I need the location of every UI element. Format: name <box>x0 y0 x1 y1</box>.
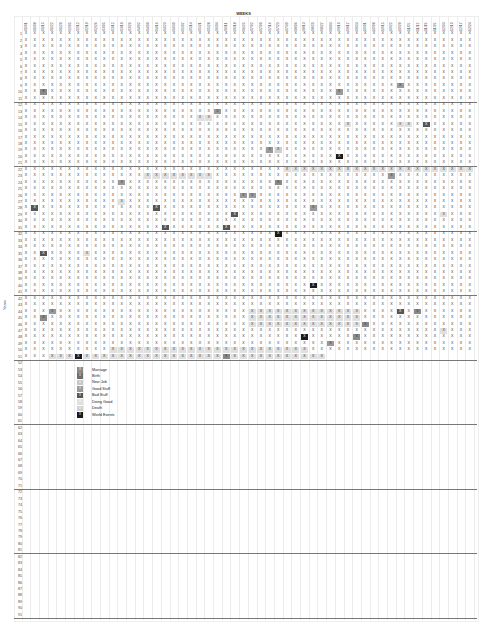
week-cell: X <box>336 128 343 134</box>
week-cell: X <box>179 334 186 340</box>
week-cell: X <box>75 135 82 141</box>
week-cell: X <box>275 322 282 328</box>
week-cell: X <box>110 70 117 76</box>
week-cell: X <box>231 289 238 295</box>
week-cell: X <box>40 76 47 82</box>
week-cell: X <box>379 186 386 192</box>
week-cell: X <box>223 270 230 276</box>
week-cell: X <box>318 218 325 224</box>
week-cell: X <box>75 173 82 179</box>
week-cell: X <box>101 31 108 37</box>
week-cell: X <box>362 70 369 76</box>
week-cell: X <box>405 128 412 134</box>
week-cell: X <box>110 276 117 282</box>
week-cell: X <box>301 160 308 166</box>
week-cell: X <box>397 57 404 63</box>
week-cell: X <box>144 135 151 141</box>
week-cell: X <box>49 276 56 282</box>
week-cell: X <box>101 89 108 95</box>
week-cell: X <box>179 231 186 237</box>
week-cell: X <box>327 218 334 224</box>
week-cell: X <box>379 341 386 347</box>
week-cell: X <box>40 244 47 250</box>
week-cell: X <box>275 257 282 263</box>
week-cell: X <box>162 128 169 134</box>
week-cell: X <box>49 102 56 108</box>
week-cell: X <box>31 76 38 82</box>
week-cell: X <box>397 225 404 231</box>
week-cell: X <box>257 44 264 50</box>
week-cell: X <box>118 64 125 70</box>
week-cell: X <box>92 115 99 121</box>
week-cell: X <box>83 309 90 315</box>
week-cell: X <box>240 160 247 166</box>
week-label: 02/12 <box>76 17 80 31</box>
week-cell: X <box>284 44 291 50</box>
week-cell: X <box>127 160 134 166</box>
week-cell: X <box>197 193 204 199</box>
week-cell: X <box>188 83 195 89</box>
week-cell: X <box>144 115 151 121</box>
week-cell: X <box>344 341 351 347</box>
week-cell: X <box>162 199 169 205</box>
week-cell: X <box>397 70 404 76</box>
week-cell: X <box>257 70 264 76</box>
week-cell: X <box>136 102 143 108</box>
week-cell: X <box>362 322 369 328</box>
week-cell: X <box>197 257 204 263</box>
week-cell: X <box>75 270 82 276</box>
week-cell: X <box>440 251 447 257</box>
week-cell: X <box>327 244 334 250</box>
week-cell: X <box>257 173 264 179</box>
week-cell: X <box>414 251 421 257</box>
week-cell: X <box>301 141 308 147</box>
week-cell: X <box>75 264 82 270</box>
legend-label: Doing Good <box>92 400 112 404</box>
week-cell: X <box>118 302 125 308</box>
week-cell: X <box>127 341 134 347</box>
week-cell: X <box>397 212 404 218</box>
week-cell: X <box>275 167 282 173</box>
week-cell: X <box>223 283 230 289</box>
week-cell: X <box>223 44 230 50</box>
week-cell: X <box>466 38 473 44</box>
week-cell: X <box>449 328 456 334</box>
week-cell: X <box>23 244 30 250</box>
week-cell: X <box>266 231 273 237</box>
week-cell: X <box>371 289 378 295</box>
week-cell: X <box>310 328 317 334</box>
week-cell: X <box>231 160 238 166</box>
week-cell: X <box>449 218 456 224</box>
week-cell: X <box>266 70 273 76</box>
week-cell: X <box>153 102 160 108</box>
week-cell: X <box>179 276 186 282</box>
week-cell: X <box>440 51 447 57</box>
week-cell: X <box>66 264 73 270</box>
week-cell: X <box>144 160 151 166</box>
week-cell: X <box>284 334 291 340</box>
week-cell: X <box>388 173 395 179</box>
week-cell: X <box>118 160 125 166</box>
week-cell: X <box>170 302 177 308</box>
week-cell: X <box>179 128 186 134</box>
week-cell: X <box>431 225 438 231</box>
week-cell: X <box>397 128 404 134</box>
week-cell: X <box>188 147 195 153</box>
week-cell: X <box>249 322 256 328</box>
week-cell: X <box>179 341 186 347</box>
year-label: 42 <box>12 297 22 301</box>
week-cell: X <box>57 354 64 360</box>
week-cell: X <box>197 44 204 50</box>
week-cell: X <box>431 109 438 115</box>
week-cell: X <box>40 70 47 76</box>
week-cell: X <box>310 186 317 192</box>
week-cell: X <box>344 347 351 353</box>
week-cell: X <box>57 38 64 44</box>
week-cell: X <box>257 160 264 166</box>
week-cell: X <box>136 135 143 141</box>
week-label: 07/16 <box>268 17 272 31</box>
week-cell: X <box>136 251 143 257</box>
week-cell: X <box>188 251 195 257</box>
week-cell: X <box>449 128 456 134</box>
week-cell: X <box>231 341 238 347</box>
